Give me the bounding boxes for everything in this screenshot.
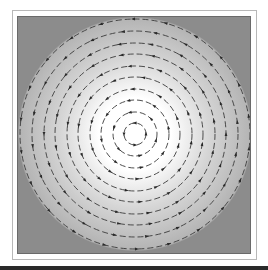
bottom-bar <box>0 266 268 270</box>
flow-field-plot <box>17 16 251 254</box>
flow-field-svg <box>18 17 250 253</box>
